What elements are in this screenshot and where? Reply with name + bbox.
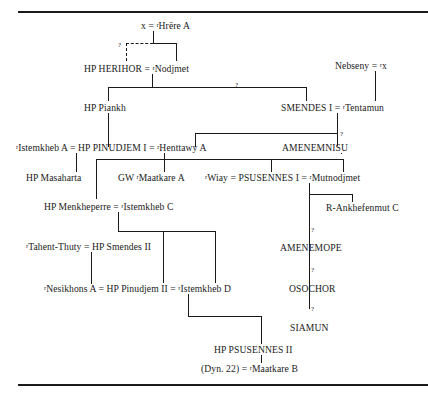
node-menkheperre: HP Menkheperre = ʳIstemkheb C (44, 201, 173, 212)
connector (76, 153, 77, 172)
connector (343, 159, 344, 172)
connector (152, 74, 153, 87)
node-x-hrere: x = ʳHrēre A (141, 20, 190, 31)
uncertain-mark: ? (311, 226, 314, 234)
connector (188, 316, 262, 317)
connector (118, 231, 216, 232)
node-ankhefenmut: R-Ankhefenmut C (326, 202, 399, 213)
connector (375, 71, 376, 101)
connector (96, 159, 272, 160)
connector (352, 194, 353, 202)
uncertain-mark: ? (118, 41, 121, 49)
connector (271, 159, 272, 172)
genealogy-diagram: x = ʳHrēre A ? HP HERIHOR = ʳNodjmet Neb… (0, 0, 428, 399)
node-amenemope: AMENEMOPE (280, 242, 342, 253)
node-nebseny: Nebseny = ʳx (335, 60, 387, 71)
node-siamun: SIAMUN (290, 322, 328, 333)
uncertain-mark: ? (311, 305, 314, 313)
top-rule (18, 11, 428, 13)
uncertain-connector (126, 43, 153, 44)
connector (163, 231, 164, 283)
connector (108, 87, 109, 101)
node-smendes-ii: ʳTahent-Thuty = HP Smendes II (26, 241, 151, 252)
connector (272, 159, 344, 160)
node-pinudjem-i: ʳIstemkheb A = HP PINUDJEM I = ʳHenttawy… (16, 142, 206, 153)
node-smendes-i: SMENDES I = ʳTentamun (281, 102, 384, 113)
uncertain-mark: ? (340, 130, 343, 138)
node-amenemnisu: AMENEMNISU (282, 142, 348, 153)
connector (261, 316, 262, 344)
connector (96, 159, 97, 199)
connector (337, 113, 338, 133)
node-psusennes-ii: HP PSUSENNES II (214, 344, 292, 355)
bottom-rule (18, 384, 428, 386)
connector (215, 231, 216, 283)
node-herihor: HP HERIHOR = ʳNodjmet (84, 63, 189, 74)
connector (306, 87, 307, 101)
uncertain-connector (126, 43, 127, 61)
connector (164, 153, 165, 172)
node-psusennes-i: ʳWiay = PSUSENNES I = ʳMutnodjmet (205, 172, 360, 183)
node-maatkare-a: GW ʳMaatkare A (118, 172, 185, 183)
node-pinudjem-ii: ʳNesikhons A = HP Pinudjem II = ʳIstemkh… (44, 283, 231, 294)
connector (309, 194, 353, 195)
uncertain-mark: ? (235, 81, 238, 89)
connector (261, 355, 262, 363)
connector (341, 153, 342, 154)
connector (176, 43, 177, 61)
connector (153, 43, 177, 44)
connector (91, 252, 92, 284)
node-maatkare-b: (Dyn. 22) = ʳMaatkare B (201, 363, 298, 374)
node-osochor: OSOCHOR (289, 283, 336, 294)
connector (195, 133, 338, 134)
node-masaharta: HP Masaharta (26, 172, 81, 183)
connector (108, 87, 307, 88)
uncertain-mark: ? (311, 266, 314, 274)
connector (118, 212, 119, 232)
node-piankh: HP Piankh (84, 102, 126, 113)
connector (188, 294, 189, 317)
